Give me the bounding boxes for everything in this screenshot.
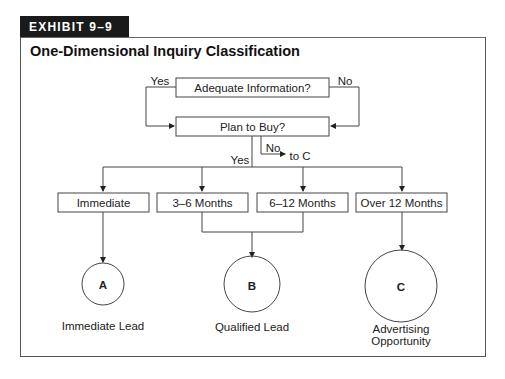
adequate-information-label: Adequate Information? [194,82,310,94]
immediate-label: Immediate [77,197,131,209]
over-12-months-label: Over 12 Months [361,197,443,209]
plan-yes-label: Yes [231,154,250,166]
3-6-months-label: 3–6 Months [172,197,232,209]
outcome-c-label-line2: Opportunity [371,335,431,347]
outcome-c-label-line1: Advertising [373,323,430,335]
outcome-c-letter: C [397,281,405,293]
adequate-yes-label: Yes [151,75,170,87]
plan-no-label: No [266,142,281,154]
no-connector [329,87,359,126]
outcome-b-label: Qualified Lead [215,321,289,333]
flowchart: Adequate Information? Plan to Buy? Immed… [0,0,505,379]
adequate-no-label: No [338,75,353,87]
outcome-b-letter: B [248,280,256,292]
yes-connector [146,87,176,126]
plan-no-target-label: to C [289,150,310,162]
plan-to-buy-label: Plan to Buy? [220,121,285,133]
6-12-months-label: 6–12 Months [269,197,336,209]
outcome-a-label: Immediate Lead [62,320,144,332]
outcome-a-letter: A [99,279,107,291]
